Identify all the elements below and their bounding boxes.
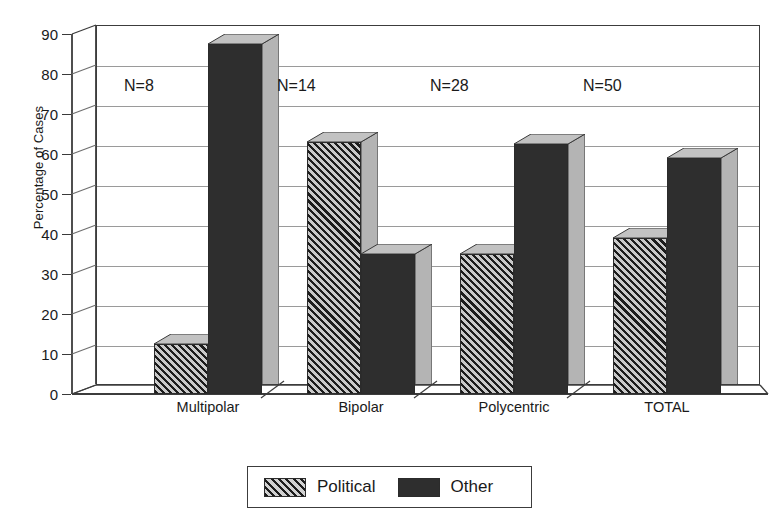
legend-label-other: Other — [451, 477, 494, 497]
bar-polycentric-other — [514, 144, 568, 394]
y-tick-label-10: 10 — [24, 347, 58, 362]
legend-label-political: Political — [317, 477, 376, 497]
bar-bipolar-other — [361, 254, 415, 394]
y-tick-label-0: 0 — [24, 387, 58, 402]
x-axis-label-total: TOTAL — [587, 400, 747, 415]
x-axis-label-bipolar: Bipolar — [281, 400, 441, 415]
y-tick-label-50: 50 — [24, 187, 58, 202]
bar-face — [361, 254, 415, 394]
bar-face — [208, 44, 262, 394]
bar-face — [460, 254, 514, 394]
bar-multipolar-other — [208, 44, 262, 394]
gridline-40 — [97, 226, 759, 227]
gridline-50 — [97, 186, 759, 187]
y-tick-label-90: 90 — [24, 27, 58, 42]
y-tick-label-40: 40 — [24, 227, 58, 242]
bar-face — [613, 238, 667, 394]
bar-face — [154, 344, 208, 394]
y-tick-label-70: 70 — [24, 107, 58, 122]
bar-chart: Percentage of Cases 90 80 70 60 50 40 30… — [0, 0, 777, 524]
y-tick-label-20: 20 — [24, 307, 58, 322]
y-tick-label-30: 30 — [24, 267, 58, 282]
legend: Political Other — [247, 466, 532, 508]
bar-face — [667, 158, 721, 394]
annotation-n-polycentric: N=28 — [430, 78, 469, 94]
legend-swatch-other-icon — [398, 478, 440, 497]
bar-total-other — [667, 158, 721, 394]
y-tick-label-60: 60 — [24, 147, 58, 162]
x-axis-label-multipolar: Multipolar — [128, 400, 288, 415]
x-axis-label-polycentric: Polycentric — [434, 400, 594, 415]
gridline-80 — [97, 66, 759, 67]
bar-multipolar-political — [154, 344, 208, 394]
legend-swatch-political-icon — [264, 478, 306, 497]
bar-face — [307, 142, 361, 394]
annotation-n-multipolar: N=8 — [124, 78, 154, 94]
bar-total-political — [613, 238, 667, 394]
gridline-60 — [97, 146, 759, 147]
legend-item-political: Political — [264, 477, 376, 497]
bar-bipolar-political — [307, 142, 361, 394]
y-axis-title: Percentage of Cases — [31, 58, 46, 278]
bar-polycentric-political — [460, 254, 514, 394]
bar-face — [514, 144, 568, 394]
legend-item-other: Other — [398, 477, 494, 497]
gridline-70 — [97, 106, 759, 107]
annotation-n-total: N=50 — [583, 78, 622, 94]
annotation-n-bipolar: N=14 — [277, 78, 316, 94]
y-tick-label-80: 80 — [24, 67, 58, 82]
